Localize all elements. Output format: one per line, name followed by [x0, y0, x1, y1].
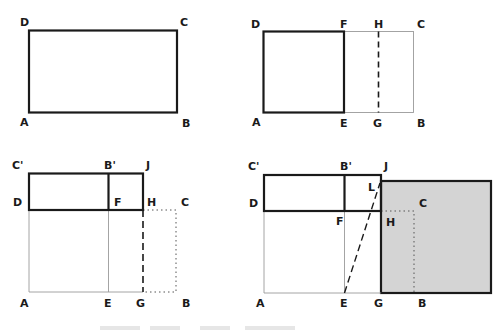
label-c: C [180, 16, 188, 29]
square-aefd [264, 32, 345, 113]
rectangle-abcd [29, 31, 177, 113]
label-e: E [340, 297, 348, 310]
label-d: D [20, 16, 29, 29]
label-c-prime: C' [248, 160, 259, 173]
label-d: D [251, 18, 260, 31]
label-b: B [182, 117, 190, 130]
label-d: D [13, 196, 22, 209]
label-e: E [104, 297, 112, 310]
label-a: A [252, 116, 261, 129]
shaded-square [381, 181, 491, 293]
panel-2-square-split: D F H C A E G B [251, 18, 425, 130]
label-j: J [145, 159, 150, 172]
label-b: B [417, 117, 425, 130]
label-a: A [256, 297, 265, 310]
dashed-diagonal-el [345, 183, 381, 293]
label-h: H [374, 18, 383, 31]
panel-3-rotated-rectangle: C' B' J D F H C A E G B [12, 159, 190, 310]
label-f: F [336, 215, 344, 228]
label-f: F [340, 18, 348, 31]
label-h: H [147, 196, 156, 209]
label-h: H [386, 216, 395, 229]
label-c-prime: C' [12, 159, 23, 172]
dotted-outline-hcb [143, 210, 176, 292]
rectangle-dc-prime-j-h [29, 174, 143, 211]
caption-remnant [100, 326, 295, 330]
label-j: J [383, 160, 388, 173]
geometry-figure: D C A B D F H C A E G B C' B' J D F H C … [0, 0, 500, 330]
label-f: F [114, 196, 122, 209]
label-g: G [373, 117, 382, 130]
panel-4-golden-square: C' B' J L D C F H A E G B [248, 160, 491, 310]
rectangle-outline-thin [264, 32, 414, 113]
label-c: C [181, 196, 189, 209]
label-l: L [368, 181, 375, 194]
panel-1-rectangle: D C A B [20, 16, 190, 130]
label-g: G [136, 297, 145, 310]
rectangle-dc-prime-j [264, 175, 381, 211]
label-b-prime: B' [340, 160, 352, 173]
label-b: B [182, 297, 190, 310]
label-a: A [20, 116, 29, 129]
label-g: G [374, 297, 383, 310]
label-a: A [20, 297, 29, 310]
label-b: B [418, 297, 426, 310]
label-e: E [340, 117, 348, 130]
label-c: C [419, 197, 427, 210]
label-d: D [249, 197, 258, 210]
label-b-prime: B' [104, 159, 116, 172]
label-c: C [417, 18, 425, 31]
